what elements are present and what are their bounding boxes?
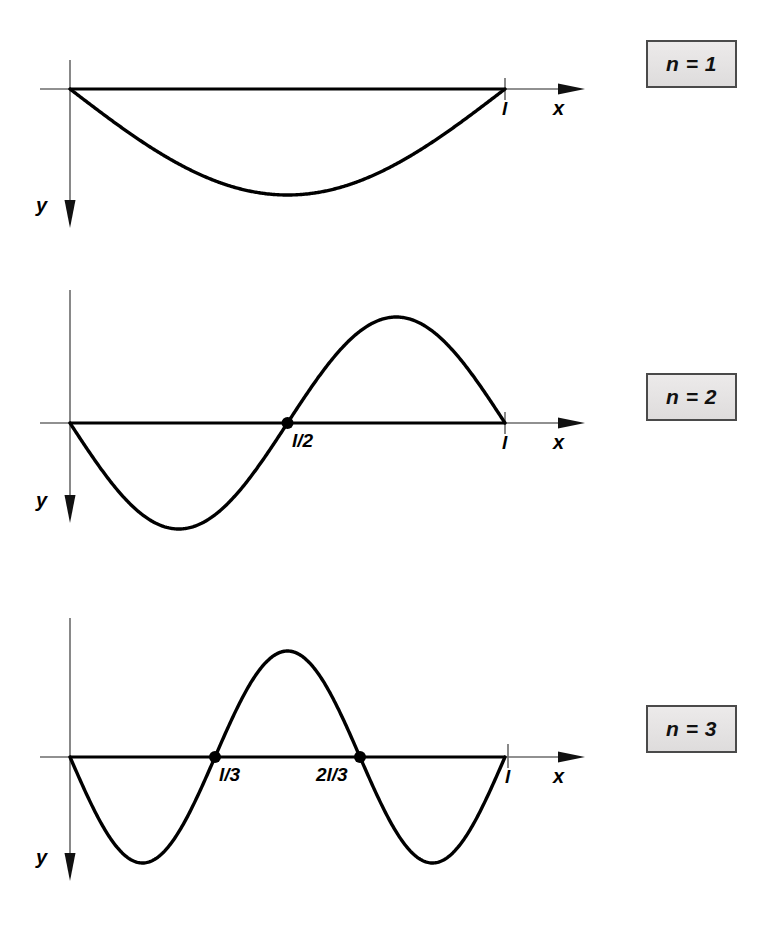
panel-n2-plot	[0, 290, 783, 590]
y-axis-arrowhead	[65, 853, 76, 881]
panel-n2: x y l/2 l n = 2	[0, 290, 783, 590]
y-axis-label-n2: y	[36, 489, 47, 512]
y-axis-arrowhead	[65, 495, 76, 523]
tick-label-two-thirds-l-n3: 2l/3	[316, 764, 348, 786]
tick-label-l-n3: l	[505, 766, 510, 788]
panel-n3: x y l/3 2l/3 l n = 3	[0, 590, 783, 931]
node-marker-two-thirds-l	[354, 751, 366, 763]
x-axis-label-n1: x	[553, 97, 564, 120]
tick-label-third-l-n3: l/3	[219, 764, 240, 786]
x-axis-arrowhead	[558, 418, 585, 429]
tick-label-l-n2: l	[502, 432, 507, 454]
figure-root: x y l n = 1 x y l/2 l n = 2	[0, 0, 783, 931]
panel-n1: x y l n = 1	[0, 0, 783, 290]
mode-box-n1: n = 1	[646, 40, 737, 88]
y-axis-label-n1: y	[36, 194, 47, 217]
mode-curve-n1-poly	[70, 89, 505, 195]
node-marker-half-l	[282, 417, 294, 429]
mode-label-n3: n = 3	[666, 717, 717, 741]
mode-box-n2: n = 2	[646, 373, 737, 421]
x-axis-arrowhead	[558, 752, 585, 763]
x-axis-arrowhead	[558, 84, 585, 95]
tick-label-half-l-n2: l/2	[292, 430, 313, 452]
x-axis-label-n2: x	[553, 431, 564, 454]
y-axis-label-n3: y	[36, 846, 47, 869]
y-axis-arrowhead	[65, 200, 76, 228]
tick-label-l-n1: l	[502, 98, 507, 120]
mode-label-n1: n = 1	[666, 52, 717, 76]
x-axis-label-n3: x	[553, 765, 564, 788]
panel-n3-plot	[0, 590, 783, 931]
node-marker-third-l	[209, 751, 221, 763]
mode-box-n3: n = 3	[646, 705, 737, 753]
mode-label-n2: n = 2	[666, 385, 717, 409]
